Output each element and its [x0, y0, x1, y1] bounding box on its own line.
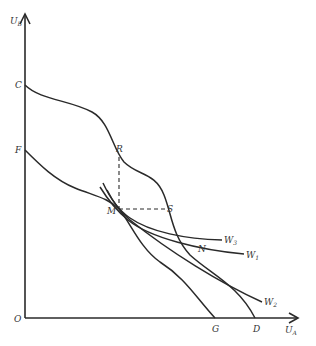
- utility-frontier-diagram: UB UA O C F R S M N G D W3 W1 W2: [0, 0, 316, 346]
- point-label-g: G: [212, 324, 219, 334]
- welfare-curve-w2: [107, 190, 262, 302]
- y-axis-label: UB: [10, 16, 23, 27]
- point-label-f: F: [14, 145, 22, 155]
- point-label-m: M: [106, 206, 117, 216]
- point-label-s: S: [167, 204, 173, 214]
- origin-label: O: [14, 314, 22, 324]
- point-label-d: D: [252, 324, 260, 334]
- point-label-c: C: [15, 80, 22, 90]
- point-label-r: R: [115, 144, 123, 154]
- welfare-label-w1: W1: [246, 250, 259, 261]
- welfare-label-w2: W2: [264, 297, 277, 308]
- frontier-fg: [25, 150, 215, 318]
- point-label-n: N: [197, 244, 207, 254]
- welfare-label-w3: W3: [224, 235, 237, 246]
- x-axis-label: UA: [285, 325, 298, 336]
- frontier-cd: [25, 85, 255, 318]
